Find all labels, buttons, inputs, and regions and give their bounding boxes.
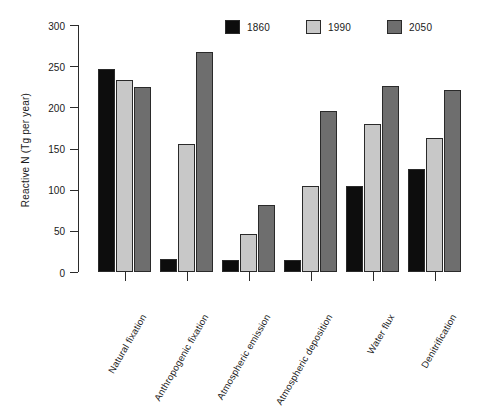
y-tick: 150 bbox=[70, 149, 78, 150]
y-axis-title: Reactive N (Tg per year) bbox=[20, 60, 31, 240]
y-tick: 300 bbox=[70, 25, 78, 26]
x-tick bbox=[125, 272, 126, 281]
bar bbox=[346, 186, 363, 272]
bar bbox=[408, 169, 425, 272]
bar bbox=[302, 186, 319, 272]
bar bbox=[134, 87, 151, 272]
x-tick bbox=[311, 272, 312, 281]
y-tick-label: 250 bbox=[48, 61, 65, 72]
bar bbox=[178, 144, 195, 272]
y-tick-label: 300 bbox=[48, 20, 65, 31]
x-axis-label: Anthropogenic fixation bbox=[146, 312, 211, 410]
y-tick-label: 0 bbox=[59, 267, 65, 278]
bar bbox=[222, 260, 239, 272]
bar bbox=[160, 259, 177, 272]
y-tick-label: 200 bbox=[48, 102, 65, 113]
x-axis-label: Natural fixation bbox=[84, 312, 149, 410]
bar bbox=[240, 234, 257, 272]
bar bbox=[258, 205, 275, 273]
y-tick-label: 150 bbox=[48, 144, 65, 155]
bar bbox=[426, 138, 443, 272]
bar bbox=[284, 260, 301, 272]
x-tick bbox=[373, 272, 374, 281]
y-tick-label: 50 bbox=[54, 226, 65, 237]
x-axis-label: Denitrification bbox=[394, 312, 459, 410]
bar bbox=[116, 80, 133, 272]
x-axis-label: Atmospheric deposition bbox=[270, 312, 335, 410]
x-tick bbox=[249, 272, 250, 281]
x-axis-label: Atmospheric emission bbox=[208, 312, 273, 410]
y-tick: 50 bbox=[70, 231, 78, 232]
plot-area: 050100150200250300 Natural fixationAnthr… bbox=[78, 25, 478, 272]
y-tick-label: 100 bbox=[48, 185, 65, 196]
x-tick bbox=[187, 272, 188, 281]
y-tick: 250 bbox=[70, 66, 78, 67]
bar bbox=[444, 90, 461, 272]
bar bbox=[364, 124, 381, 272]
bar bbox=[320, 111, 337, 272]
bar bbox=[98, 69, 115, 272]
x-axis-label: Water flux bbox=[332, 312, 397, 410]
y-tick: 200 bbox=[70, 107, 78, 108]
y-tick: 100 bbox=[70, 190, 78, 191]
bar bbox=[382, 86, 399, 272]
x-tick bbox=[435, 272, 436, 281]
y-tick: 0 bbox=[70, 272, 78, 273]
bars-layer bbox=[78, 25, 478, 272]
bar bbox=[196, 52, 213, 272]
